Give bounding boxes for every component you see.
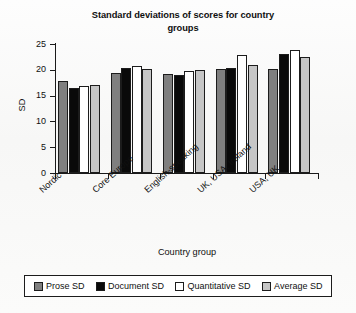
y-tick-label: 10 [20, 117, 46, 126]
legend-swatch [175, 282, 184, 291]
chart-title: Standard deviations of scores for countr… [38, 9, 328, 34]
bar-group [265, 44, 318, 173]
x-axis-title: Country group [55, 247, 319, 257]
legend-entry[interactable]: Quantitative SD [175, 282, 251, 291]
bar [290, 50, 300, 173]
bar-group [55, 44, 108, 173]
legend-entry[interactable]: Document SD [96, 282, 165, 291]
legend-swatch [34, 282, 43, 291]
legend-entry[interactable]: Prose SD [34, 282, 85, 291]
chart-legend: Prose SDDocument SDQuantitative SDAverag… [24, 275, 332, 297]
chart-title-line-1: Standard deviations of scores for countr… [92, 10, 274, 20]
bar [132, 66, 142, 173]
chart-title-line-2: groups [167, 23, 198, 33]
bar-chart-figure: Standard deviations of scores for countr… [0, 0, 356, 313]
bar [90, 85, 100, 173]
y-tick-label: 0 [20, 169, 46, 178]
legend-label: Quantitative SD [188, 282, 251, 291]
y-tick-label: 5 [20, 143, 46, 152]
y-tick-label: 15 [20, 91, 46, 100]
bar [195, 70, 205, 173]
bar [279, 54, 289, 173]
y-tick-label: 25 [20, 40, 46, 49]
legend-label: Prose SD [46, 282, 85, 291]
y-axis-title: SD [17, 75, 27, 135]
legend-swatch [96, 282, 105, 291]
bar [142, 69, 152, 173]
y-tick-label: 20 [20, 65, 46, 74]
bar [268, 69, 278, 173]
x-tick-mark [318, 174, 319, 179]
legend-label: Document SD [108, 282, 164, 291]
x-axis-line [55, 173, 319, 174]
legend-entry[interactable]: Average SD [262, 282, 323, 291]
legend-label: Average SD [274, 282, 322, 291]
bar [58, 81, 68, 173]
bar [300, 57, 310, 173]
bar [248, 65, 258, 173]
legend-swatch [262, 282, 271, 291]
bar [111, 73, 121, 173]
bar [79, 86, 89, 173]
bar [163, 74, 173, 173]
bar [216, 69, 226, 173]
bar-group [108, 44, 161, 173]
bar [69, 88, 79, 173]
